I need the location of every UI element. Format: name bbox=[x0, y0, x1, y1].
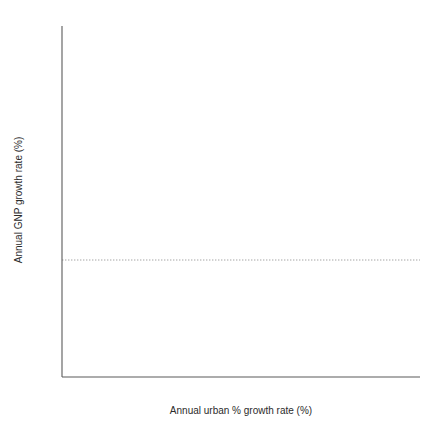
scatter-chart-figure: Annual urban % growth rate (%) Annual GN… bbox=[0, 0, 442, 442]
y-axis-title: Annual GNP growth rate (%) bbox=[13, 137, 24, 264]
plot-canvas: Annual urban % growth rate (%) Annual GN… bbox=[0, 0, 442, 442]
x-axis-title: Annual urban % growth rate (%) bbox=[170, 405, 312, 416]
axes bbox=[62, 26, 420, 377]
